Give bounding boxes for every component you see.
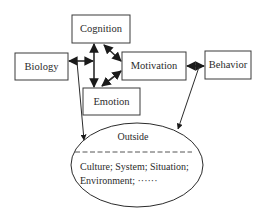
motivation-label: Motivation — [131, 60, 178, 71]
diagram-canvas: Outside Culture; System; Situation; Envi… — [0, 0, 273, 220]
outside-line-2: Environment; ······ — [80, 175, 157, 186]
arrow-emotion-motivation — [102, 71, 121, 86]
biology-label: Biology — [25, 61, 60, 72]
node-cognition: Cognition — [72, 15, 130, 43]
outside-ellipse: Outside Culture; System; Situation; Envi… — [71, 123, 203, 207]
outside-line-1: Culture; System; Situation; — [80, 161, 189, 172]
emotion-label: Emotion — [93, 96, 130, 107]
outside-title: Outside — [117, 131, 149, 142]
arrow-cognition-motivation — [104, 45, 121, 61]
node-motivation: Motivation — [122, 52, 186, 80]
node-behavior: Behavior — [205, 51, 251, 79]
behavior-label: Behavior — [209, 59, 248, 70]
node-emotion: Emotion — [83, 88, 140, 115]
cognition-label: Cognition — [80, 23, 123, 34]
node-biology: Biology — [15, 53, 68, 80]
